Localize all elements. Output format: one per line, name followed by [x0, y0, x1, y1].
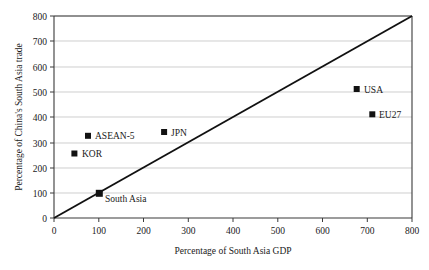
y-tick-label: 600: [33, 63, 48, 73]
x-tick-label: 600: [315, 226, 330, 236]
x-axis-title: Percentage of South Asia GDP: [174, 246, 291, 256]
y-tick-label: 400: [33, 113, 48, 123]
y-tick-label: 0: [42, 214, 47, 224]
data-point-label-jpn: JPN: [171, 128, 187, 138]
x-tick-label: 300: [181, 226, 196, 236]
data-point-marker-asean-5[interactable]: [85, 133, 91, 139]
x-tick-marks: [54, 218, 412, 222]
data-point-label-asean-5: ASEAN-5: [95, 131, 135, 141]
x-tick-labels: 0 100 200 300 400 500 600 700 800: [52, 226, 420, 236]
y-axis-title: Percentage of China's South Asia trade: [14, 43, 24, 191]
data-points: [71, 86, 375, 197]
data-point-marker-jpn[interactable]: [161, 129, 167, 135]
x-tick-label: 700: [360, 226, 375, 236]
y-tick-label: 800: [33, 12, 48, 22]
x-tick-label: 400: [226, 226, 241, 236]
data-point-label-kor: KOR: [82, 149, 103, 159]
x-tick-label: 200: [136, 226, 151, 236]
scatter-chart: 800 700 600 500 400 300 200 100 0 0 100 …: [0, 0, 429, 270]
data-point-marker-south-asia[interactable]: [96, 190, 103, 197]
data-point-label-south-asia: South Asia: [105, 194, 147, 204]
x-tick-label: 500: [271, 226, 286, 236]
data-point-label-usa: USA: [364, 85, 383, 95]
y-tick-labels: 800 700 600 500 400 300 200 100 0: [33, 12, 48, 224]
x-tick-label: 0: [52, 226, 57, 236]
y-tick-label: 100: [33, 189, 48, 199]
y-tick-marks: [50, 16, 54, 218]
data-point-marker-usa[interactable]: [354, 86, 360, 92]
y-tick-label: 200: [33, 164, 48, 174]
y-tick-label: 500: [33, 88, 48, 98]
data-point-label-eu27: EU27: [379, 110, 401, 120]
x-tick-label: 800: [405, 226, 420, 236]
data-point-labels: KOR ASEAN-5 JPN South Asia USA EU27: [82, 85, 401, 205]
data-point-marker-kor[interactable]: [71, 151, 77, 157]
y-tick-label: 700: [33, 37, 48, 47]
plot-canvas: 800 700 600 500 400 300 200 100 0 0 100 …: [0, 0, 429, 270]
x-tick-label: 100: [92, 226, 107, 236]
y-tick-label: 300: [33, 139, 48, 149]
data-point-marker-eu27[interactable]: [369, 111, 375, 117]
gridlines: [54, 16, 412, 193]
